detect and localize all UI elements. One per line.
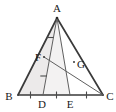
point-label-c: C xyxy=(106,90,113,102)
point-label-e: E xyxy=(67,98,74,110)
vertex-dot-f xyxy=(43,56,45,58)
vertex-dot-g xyxy=(73,61,75,63)
point-label-d: D xyxy=(38,98,46,110)
point-label-b: B xyxy=(5,90,12,102)
figure-canvas: A B C D E F G xyxy=(0,0,116,112)
point-label-g: G xyxy=(77,58,85,70)
point-label-a: A xyxy=(53,2,61,14)
geometry-figure: A B C D E F G xyxy=(0,0,116,112)
vertex-dot-a xyxy=(56,17,59,20)
point-label-f: F xyxy=(35,51,41,63)
